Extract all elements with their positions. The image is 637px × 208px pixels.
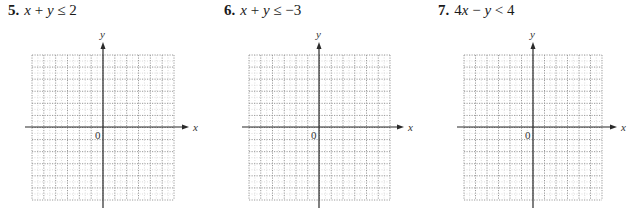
origin-label: 0: [525, 129, 531, 141]
coordinate-grid[interactable]: xy0: [0, 0, 637, 208]
x-axis-arrow-icon: [610, 125, 617, 130]
x-axis-label: x: [620, 121, 626, 133]
y-axis-arrow-icon: [531, 42, 536, 49]
y-axis-label: y: [529, 28, 535, 40]
